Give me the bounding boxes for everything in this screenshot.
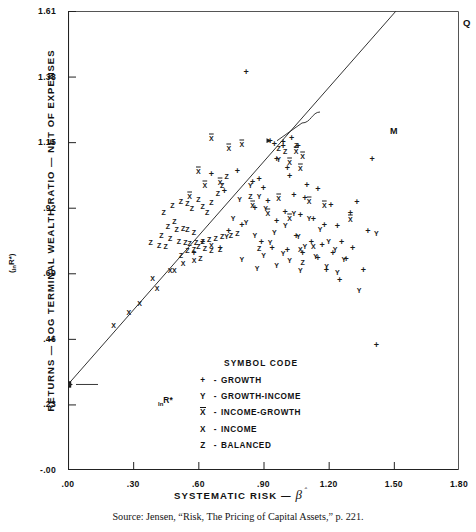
data-point-income: X [155,284,160,291]
data-point-growth-income: Y [335,268,340,275]
data-point-balanced: Z [207,236,211,243]
x-tick-label: 1.50 [372,479,416,489]
x-tick-label: 1.80 [437,479,476,489]
data-point-growth: + [243,69,248,76]
data-point-growth: + [287,173,292,180]
data-point-balanced: Z [300,258,304,265]
data-point-growth: + [365,227,370,234]
data-point-growth: + [304,181,309,188]
data-point-income-growth: X [250,201,255,208]
legend-dash: - [210,441,221,450]
data-point-balanced: Z [218,246,222,253]
x-tick-label: .30 [111,479,155,489]
y-tick-label: -.00 [16,465,56,475]
x-tick-label: 1.20 [307,479,351,489]
data-point-balanced: Z [168,234,172,241]
data-point-growth: + [335,223,340,230]
data-point-balanced: Z [283,147,287,154]
data-point-growth: + [280,139,285,146]
data-point-balanced: Z [277,144,281,151]
data-point-growth-income: Y [252,231,257,238]
data-point-income: X [298,246,303,253]
y-tick-label: .69 [16,268,56,278]
data-point-growth: + [298,211,303,218]
legend-item-income: X-INCOME [196,425,346,434]
data-point-growth-income: Y [255,264,260,271]
data-point-growth-income: Y [296,233,301,240]
legend-symbol-icon: X [196,425,210,434]
data-point-growth-income: Y [272,228,277,235]
data-point-growth-income: Y [292,210,297,217]
data-point-balanced: Z [174,226,178,233]
data-point-growth: + [339,238,344,245]
data-point-growth: + [320,241,325,248]
data-point-income-growth: X [322,201,327,208]
data-point-balanced: Z [179,251,183,258]
legend-dash: - [210,376,221,385]
data-point-income-growth: X [348,216,353,223]
data-point-growth-income: Y [268,238,273,245]
data-point-growth-income: Y [248,181,253,188]
data-point-income-growth: X [187,193,192,200]
data-point-balanced: Z [166,223,170,230]
legend-rows: +-GROWTHY-GROWTH-INCOMEX-INCOME-GROWTHX-… [196,376,346,450]
data-point-income: X [181,260,186,267]
data-point-growth: + [274,217,279,224]
data-point-income: X [150,274,155,281]
legend-label: INCOME-GROWTH [221,408,301,417]
data-point-balanced: Z [172,217,176,224]
data-point-growth-income: Y [244,218,249,225]
data-point-income-growth: X [226,144,231,151]
data-point-balanced: Z [198,254,202,261]
y-tick-label: 1.38 [16,72,56,82]
data-point-income: X [172,267,177,274]
data-point-growth: + [361,267,366,274]
y-tick-label: .92 [16,203,56,213]
y-axis-title: RETURNS — LOG TERMINAL WEALTH RATIO — NE… [45,21,56,441]
data-point-growth-income: Y [239,256,244,263]
data-point-balanced: Z [205,208,209,215]
x-tick-label: .90 [242,479,286,489]
market-line [68,11,396,388]
data-point-balanced: Z [224,173,228,180]
data-point-balanced: Z [220,233,224,240]
data-point-growth-income: Y [307,214,312,221]
data-point-income-growth: X [209,134,214,141]
y-tick-label: 1.61 [16,6,56,16]
scatter-chart-figure: RETURNS — LOG TERMINAL WEALTH RATIO — NE… [0,0,476,532]
data-point-growth: + [337,277,342,284]
data-point-balanced: Z [203,244,207,251]
legend-symbol-icon: Z [196,441,210,450]
data-point-growth: + [328,201,333,208]
data-point-income: X [311,243,316,250]
source-note: Source: Jensen, “Risk, The Pricing of Ca… [0,511,476,522]
data-point-growth-income: Y [324,263,329,270]
data-point-growth-income: Y [257,193,262,200]
data-point-income-growth: X [298,164,303,171]
annotation-q: Q [463,17,470,28]
data-point-growth: + [235,167,240,174]
data-point-growth-income: Y [261,251,266,258]
legend-symbol-icon: Y [196,392,210,401]
data-point-growth-income: Y [357,287,362,294]
legend-symbol-icon: + [196,376,210,385]
data-point-growth-income: Y [274,261,279,268]
data-point-income: X [126,308,131,315]
data-point-growth-income: Y [333,246,338,253]
data-point-growth-income: Y [237,196,242,203]
beta-hat-symbol: β̂ [295,487,301,502]
data-point-growth-income: Y [318,226,323,233]
data-point-growth-income: Y [313,253,318,260]
data-point-balanced: Z [179,197,183,204]
legend-label: GROWTH [221,376,262,385]
y-tick-label: .23 [16,399,56,409]
data-point-growth: + [291,191,296,198]
data-point-growth-income: Y [276,156,281,163]
data-point-growth: + [350,244,355,251]
data-point-balanced: Z [257,244,261,251]
data-point-balanced: Z [214,234,218,241]
legend-dash: - [210,392,221,401]
legend-label: BALANCED [221,441,271,450]
data-point-growth-income: Y [298,267,303,274]
data-point-income-growth: X [300,153,305,160]
